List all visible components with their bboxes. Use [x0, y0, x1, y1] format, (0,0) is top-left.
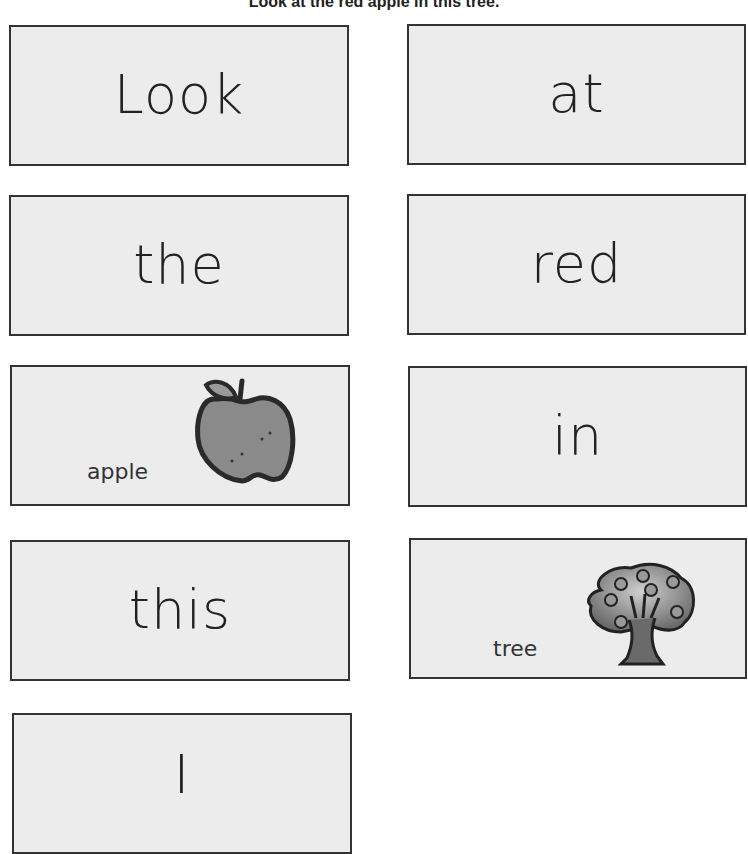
card-word: in	[410, 404, 745, 467]
word-card-i: I	[12, 713, 352, 854]
card-word: this	[12, 578, 348, 641]
card-word: I	[14, 743, 350, 806]
word-card-red: red	[407, 194, 746, 335]
card-word: Look	[11, 63, 347, 126]
card-word: red	[409, 232, 744, 295]
word-card-this: this	[10, 540, 350, 681]
word-card-at: at	[407, 24, 746, 165]
card-word: the	[11, 233, 347, 296]
word-card-apple: apple	[10, 365, 350, 506]
apple-icon	[192, 359, 302, 489]
card-word: apple	[87, 459, 148, 484]
worksheet-heading: Look at the red apple in this tree.	[0, 0, 748, 11]
word-card-tree: tree	[409, 538, 747, 679]
word-card-the: the	[9, 195, 349, 336]
card-word: tree	[493, 636, 537, 661]
word-card-in: in	[408, 366, 747, 507]
card-word: at	[409, 62, 744, 125]
word-card-look: Look	[9, 25, 349, 166]
tree-icon	[581, 560, 701, 670]
